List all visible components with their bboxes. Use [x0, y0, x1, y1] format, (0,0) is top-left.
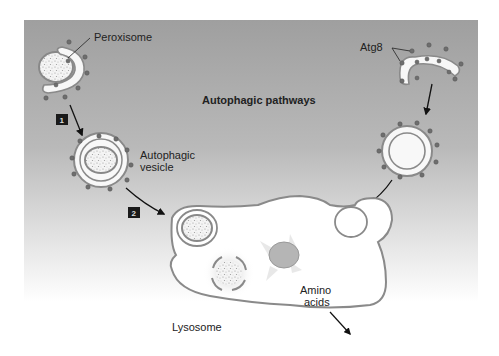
step-2-badge: 2 — [128, 207, 140, 218]
lysosome-label: Lysosome — [172, 321, 222, 333]
autophagy-diagram: Autophagic pathways Peroxisome 1 — [0, 0, 499, 356]
peroxisome-label: Peroxisome — [94, 31, 152, 43]
diagram-title: Autophagic pathways — [202, 94, 316, 106]
lysosome — [171, 196, 392, 308]
amino-acids-label-line1: Amino — [300, 284, 331, 296]
autophagic-vesicle-label-line2: vesicle — [140, 161, 174, 173]
step-1-badge: 1 — [56, 114, 68, 125]
svg-text:1: 1 — [60, 116, 65, 125]
atg8-label: Atg8 — [360, 41, 383, 53]
degrading-peroxisome — [203, 247, 255, 299]
svg-text:2: 2 — [132, 209, 137, 218]
amino-acids-label-line2: acids — [304, 296, 330, 308]
arrow-amino-acids-out — [330, 312, 350, 334]
autophagic-vesicle-label-line1: Autophagic — [140, 149, 196, 161]
